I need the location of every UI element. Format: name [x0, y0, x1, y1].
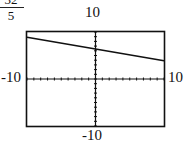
graph-window	[0, 0, 185, 143]
axes	[27, 32, 164, 126]
